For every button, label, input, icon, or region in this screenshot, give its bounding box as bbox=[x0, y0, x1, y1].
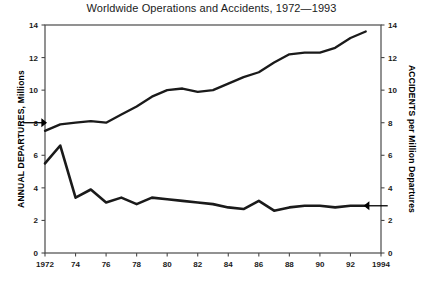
x-axis-tick-label: 84 bbox=[224, 260, 233, 269]
x-axis-tick-label: 86 bbox=[254, 260, 263, 269]
y-axis-tick-label: 12 bbox=[29, 54, 38, 63]
x-axis-tick-label: 1972 bbox=[36, 260, 54, 269]
y-axis-tick-label: 4 bbox=[34, 184, 39, 193]
series-line-departures bbox=[45, 32, 366, 131]
series-line-accidents bbox=[45, 146, 366, 211]
chart-plot-area: 1972747678808284868890921994024681012140… bbox=[0, 0, 423, 286]
y2-axis-tick-label: 12 bbox=[388, 54, 397, 63]
x-axis-tick-label: 80 bbox=[163, 260, 172, 269]
y-axis-tick-label: 14 bbox=[29, 21, 38, 30]
y2-axis-title: ACCIDENTS per Million Departures bbox=[407, 65, 417, 213]
y-axis-tick-label: 0 bbox=[34, 249, 39, 258]
x-axis-tick-label: 82 bbox=[193, 260, 202, 269]
y2-axis-tick-label: 4 bbox=[388, 184, 393, 193]
x-axis-tick-label: 76 bbox=[102, 260, 111, 269]
y2-axis-tick-label: 14 bbox=[388, 21, 397, 30]
x-axis-tick-label: 74 bbox=[71, 260, 80, 269]
x-axis-tick-label: 78 bbox=[132, 260, 141, 269]
y-axis-tick-label: 10 bbox=[29, 86, 38, 95]
y-axis-title: ANNUAL DEPARTURES, Millions bbox=[16, 70, 26, 208]
y-axis-tick-label: 2 bbox=[34, 216, 39, 225]
y2-axis-tick-label: 0 bbox=[388, 249, 393, 258]
x-axis-tick-label: 88 bbox=[285, 260, 294, 269]
y2-axis-tick-label: 8 bbox=[388, 119, 393, 128]
plot-frame bbox=[45, 25, 381, 253]
x-axis-tick-label: 1994 bbox=[372, 260, 390, 269]
chart-figure: Worldwide Operations and Accidents, 1972… bbox=[0, 0, 423, 286]
y2-axis-tick-label: 10 bbox=[388, 86, 397, 95]
right-arrow-to-accidents bbox=[365, 203, 388, 209]
x-axis-tick-label: 90 bbox=[315, 260, 324, 269]
y2-axis-tick-label: 2 bbox=[388, 216, 393, 225]
y2-axis-tick-label: 6 bbox=[388, 151, 393, 160]
x-axis-tick-label: 92 bbox=[346, 260, 355, 269]
y-axis-tick-label: 6 bbox=[34, 151, 39, 160]
